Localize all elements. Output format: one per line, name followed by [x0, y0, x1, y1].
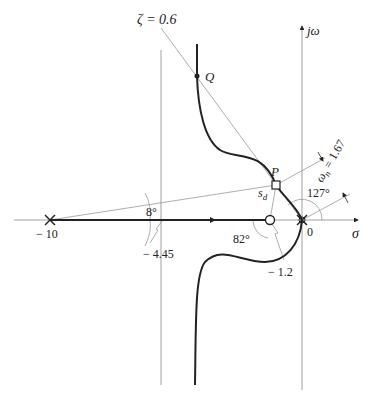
zero-leader	[272, 224, 284, 260]
point-q-marker	[195, 74, 200, 79]
angle-82-label: 82°	[233, 232, 250, 246]
zero-label: − 1.2	[268, 265, 293, 279]
omega-n-label: ωn = 1.67	[312, 137, 349, 186]
sigma-label: σ	[352, 226, 360, 241]
angle-127-label: 127°	[307, 186, 330, 200]
angle-8-label: 8°	[146, 205, 157, 219]
origin-label: 0	[307, 225, 313, 239]
root-locus-diagram: ζ = 0.6 jω σ Q P sd 127° 8° 82° − 10 − 4…	[0, 0, 373, 398]
point-p-marker	[272, 181, 280, 189]
angle-line-from-zero	[270, 185, 276, 220]
p-label: P	[270, 164, 279, 179]
pole-minus10-label: − 10	[36, 227, 58, 241]
jw-label: jω	[305, 23, 320, 38]
double-pole-origin-icon	[297, 215, 307, 225]
zero-minus1-2-icon	[266, 216, 275, 225]
q-label: Q	[205, 69, 215, 84]
angle-line-from-pole	[50, 185, 276, 220]
sd-label: sd	[258, 186, 268, 202]
zeta-label: ζ = 0.6	[137, 12, 177, 27]
centroid-leader	[150, 221, 162, 243]
centroid-label: − 4.45	[143, 247, 174, 261]
omega-dim-arrow-2	[343, 193, 348, 203]
